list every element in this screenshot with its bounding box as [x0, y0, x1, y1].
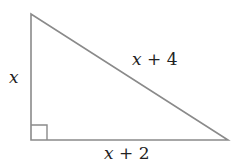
hypotenuse-label: x + 4: [132, 51, 177, 68]
horizontal-leg-label: x + 2: [104, 145, 149, 162]
triangle-figure: [0, 0, 241, 164]
triangle: [31, 14, 228, 140]
right-angle-marker: [31, 125, 47, 140]
vertical-leg-label: x: [9, 69, 19, 86]
